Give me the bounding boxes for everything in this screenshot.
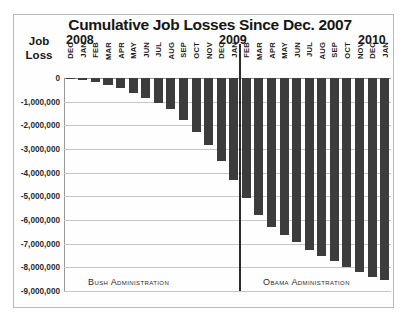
bar — [179, 78, 188, 120]
bar — [217, 78, 226, 161]
bar — [254, 78, 263, 215]
bar — [204, 78, 213, 145]
x-axis-month-label: SEP — [179, 42, 188, 58]
x-axis-month-label: JAN — [381, 42, 390, 58]
x-axis-month-label: MAR — [255, 42, 264, 60]
x-axis-month-label: DEC — [66, 42, 75, 59]
bar — [116, 78, 125, 88]
y-axis-title: Job Loss — [16, 34, 62, 62]
y-axis-tick-labels: 0-1,000,000-2,000,000-3,000,000-4,000,00… — [0, 78, 60, 291]
administration-divider-line — [239, 44, 241, 291]
bar — [103, 78, 112, 85]
x-axis-month-label: FEB — [242, 42, 251, 58]
bar — [229, 78, 238, 180]
obama-administration-label: Obama Administration — [263, 277, 350, 287]
bar — [280, 78, 289, 235]
x-axis-month-label: JUN — [142, 42, 151, 58]
y-axis-tick-label: -7,000,000 — [4, 239, 60, 248]
bar — [355, 78, 364, 272]
bar — [91, 78, 100, 82]
y-axis-tick-label: -6,000,000 — [4, 216, 60, 225]
y-axis-line — [64, 78, 65, 291]
y-axis-tick-label: -4,000,000 — [4, 168, 60, 177]
plot-area — [64, 78, 391, 291]
x-axis-month-label: AUG — [318, 42, 327, 59]
x-axis-month-label: APR — [117, 42, 126, 59]
x-axis-month-label: FEB — [91, 42, 100, 58]
bar — [292, 78, 301, 242]
bar — [66, 78, 75, 79]
y-axis-tick-label: -8,000,000 — [4, 263, 60, 272]
x-axis-month-label: AUG — [167, 42, 176, 59]
x-axis-month-label: DEC — [217, 42, 226, 59]
bar — [166, 78, 175, 109]
x-axis-month-labels: DECJANFEBMARAPRMAYJUNJULAUGSEPOCTNOVDECJ… — [64, 42, 391, 76]
bar — [129, 78, 138, 93]
y-axis-tick-label: -1,000,000 — [4, 97, 60, 106]
bar — [78, 78, 87, 80]
bar — [141, 78, 150, 98]
x-axis-month-label: OCT — [343, 42, 352, 59]
bar — [342, 78, 351, 267]
y-axis-tick-label: 0 — [4, 74, 60, 83]
y-axis-tick-label: -9,000,000 — [4, 287, 60, 296]
bush-administration-label: Bush Administration — [88, 277, 169, 287]
bar — [330, 78, 339, 261]
bar — [368, 78, 377, 277]
y-axis-tick-label: -3,000,000 — [4, 145, 60, 154]
x-axis-month-label: OCT — [192, 42, 201, 59]
x-axis-month-label: JAN — [79, 42, 88, 58]
x-axis-month-label: MAY — [280, 42, 289, 59]
bar — [305, 78, 314, 250]
y-axis-title-line2: Loss — [16, 48, 62, 62]
x-axis-month-label: APR — [268, 42, 277, 59]
x-axis-month-label: MAR — [104, 42, 113, 60]
chart-title: Cumulative Job Losses Since Dec. 2007 — [60, 16, 360, 34]
y-axis-tick-label: -5,000,000 — [4, 192, 60, 201]
gridline — [64, 267, 391, 268]
x-axis-month-label: DEC — [368, 42, 377, 59]
x-axis-month-label: NOV — [205, 42, 214, 59]
bar — [267, 78, 276, 227]
bar — [154, 78, 163, 103]
x-axis-month-label: JUL — [154, 42, 163, 57]
x-axis-month-label: MAY — [129, 42, 138, 59]
bar — [192, 78, 201, 132]
y-axis-tick-label: -2,000,000 — [4, 121, 60, 130]
bar — [242, 78, 251, 198]
bar — [317, 78, 326, 256]
x-axis-month-label: SEP — [330, 42, 339, 58]
y-axis-title-line1: Job — [16, 34, 62, 48]
x-axis-month-label: JAN — [230, 42, 239, 58]
x-axis-month-label: JUL — [305, 42, 314, 57]
x-axis-month-label: NOV — [356, 42, 365, 59]
bar — [380, 78, 389, 280]
gridline — [64, 291, 391, 292]
x-axis-month-label: JUN — [293, 42, 302, 58]
